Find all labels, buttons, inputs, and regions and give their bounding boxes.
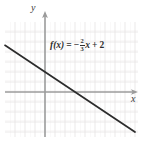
- coordinate-plane: [0, 0, 144, 147]
- graph-figure: y x f(x) = − 2 3 x + 2: [0, 0, 144, 147]
- fraction-denominator: 3: [80, 46, 85, 53]
- equation-intercept: 2: [100, 41, 105, 51]
- equation-equals-sign: =: [66, 41, 71, 51]
- equation-slope-fraction: 2 3: [80, 38, 85, 54]
- equation-function-name: f(x): [50, 41, 64, 51]
- y-axis-label: y: [31, 3, 35, 13]
- equation-plus-sign: +: [92, 41, 97, 51]
- equation-annotation: f(x) = − 2 3 x + 2: [50, 38, 104, 54]
- equation-variable: x: [85, 41, 90, 51]
- equation-minus-sign: −: [74, 41, 79, 51]
- x-axis-label: x: [131, 94, 135, 104]
- fraction-numerator: 2: [80, 38, 85, 45]
